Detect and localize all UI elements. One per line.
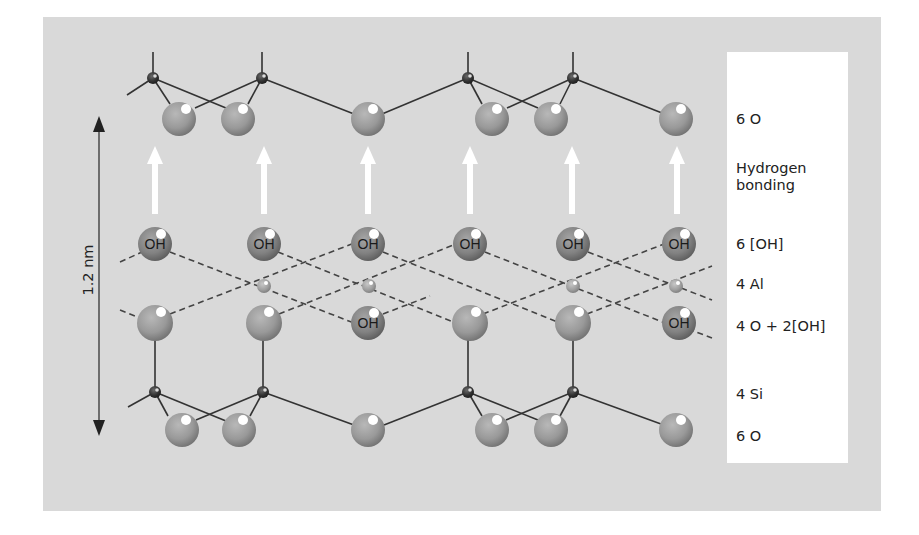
arrow-up-icon	[564, 146, 580, 214]
arrow-up-icon	[462, 146, 478, 214]
hydroxyl-layer: OH OH OH OH OH OH	[138, 227, 696, 261]
label-hydroxyl: 6 [OH]	[736, 236, 783, 253]
oxygen-atom	[351, 102, 385, 136]
oxygen-atom	[246, 305, 282, 341]
arrow-up-icon	[360, 146, 376, 214]
apical-bonds	[155, 340, 573, 392]
bottom-silicon-layer	[149, 386, 579, 398]
scale-bar-label: 1.2 nm	[80, 245, 96, 296]
hydroxyl-atom: OH	[556, 227, 590, 261]
silicon-atom	[462, 72, 474, 84]
oxygen-atom	[221, 102, 255, 136]
label-hydrogen-bonding-line1: Hydrogen	[736, 160, 807, 177]
silicon-atom	[256, 72, 268, 84]
label-aluminium: 4 Al	[736, 276, 764, 293]
silicon-atom	[257, 386, 269, 398]
hydroxyl-atom: OH	[662, 306, 696, 340]
layer-legend-panel: 6 O Hydrogen bonding 6 [OH] 4 Al 4 O + 2…	[727, 52, 848, 463]
arrow-up-icon	[147, 146, 163, 214]
silicon-atom	[567, 386, 579, 398]
hydroxyl-atom: OH	[247, 227, 281, 261]
svg-text:OH: OH	[145, 236, 166, 252]
svg-text:OH: OH	[358, 236, 379, 252]
octahedral-bonds	[120, 242, 712, 338]
mixed-oxygen-hydroxyl-layer: OH OH	[137, 305, 696, 341]
oxygen-atom	[165, 413, 199, 447]
oxygen-atom	[222, 413, 256, 447]
hydroxyl-atom: OH	[138, 227, 172, 261]
silicon-atom	[462, 386, 474, 398]
oxygen-atom	[475, 413, 509, 447]
label-mixed-oxygen-hydroxyl: 4 O + 2[OH]	[736, 318, 825, 335]
top-oxygen-layer	[162, 102, 693, 136]
aluminium-layer	[257, 279, 683, 293]
oxygen-atom	[534, 413, 568, 447]
bottom-oxygen-layer	[165, 413, 693, 447]
label-silicon: 4 Si	[736, 386, 763, 403]
label-top-oxygen: 6 O	[736, 111, 761, 128]
oxygen-atom	[659, 102, 693, 136]
svg-text:OH: OH	[460, 236, 481, 252]
silicon-atom	[567, 72, 579, 84]
label-bottom-oxygen: 6 O	[736, 428, 761, 445]
svg-text:OH: OH	[254, 236, 275, 252]
oxygen-atom	[659, 413, 693, 447]
aluminium-atom	[362, 279, 376, 293]
label-hydrogen-bonding-line2: bonding	[736, 177, 795, 194]
aluminium-atom	[669, 279, 683, 293]
silicon-atom	[147, 72, 159, 84]
svg-text:OH: OH	[669, 236, 690, 252]
svg-text:OH: OH	[358, 315, 379, 331]
oxygen-atom	[555, 305, 591, 341]
aluminium-atom	[566, 279, 580, 293]
hydroxyl-atom: OH	[662, 227, 696, 261]
aluminium-atom	[257, 279, 271, 293]
oxygen-atom	[162, 102, 196, 136]
oxygen-atom	[534, 102, 568, 136]
hydroxyl-atom: OH	[453, 227, 487, 261]
top-silicon-layer	[147, 72, 579, 84]
bottom-silica-bonds	[128, 392, 661, 425]
arrow-up-icon	[256, 146, 272, 214]
svg-text:OH: OH	[669, 315, 690, 331]
oxygen-atom	[351, 413, 385, 447]
scale-bar: 1.2 nm	[80, 116, 105, 436]
hydrogen-bond-arrows	[147, 146, 685, 214]
oxygen-atom	[137, 305, 173, 341]
arrow-up-icon	[669, 146, 685, 214]
oxygen-atom	[452, 305, 488, 341]
oxygen-atom	[475, 102, 509, 136]
top-silica-bonds	[127, 52, 662, 114]
silicon-atom	[149, 386, 161, 398]
svg-text:OH: OH	[563, 236, 584, 252]
hydroxyl-atom: OH	[351, 227, 385, 261]
hydroxyl-atom: OH	[351, 306, 385, 340]
